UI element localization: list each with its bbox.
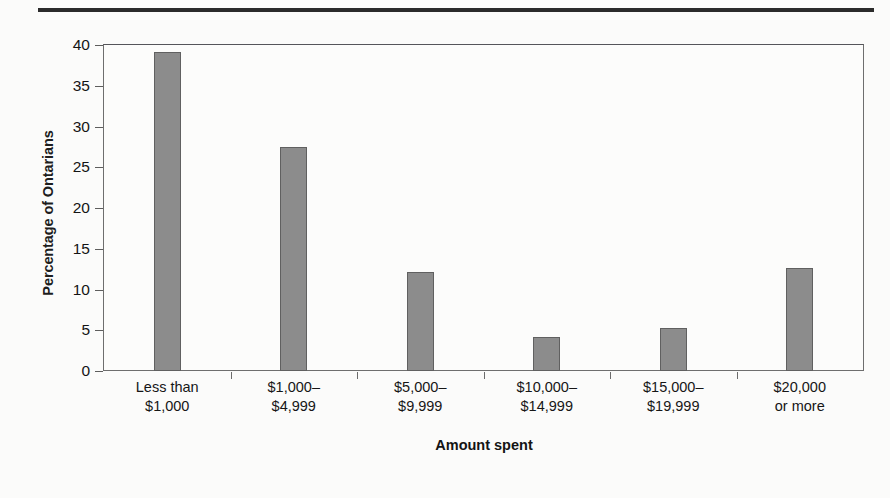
y-axis-tick-mark [95,371,103,372]
x-axis-category-label-line: $20,000 [737,378,864,397]
y-axis-tick-mark [95,86,103,87]
y-axis-tick-mark [95,127,103,128]
y-axis-tick-label: 0 [48,362,90,380]
y-axis-tick-mark [95,167,103,168]
x-axis-category-label-line: $9,999 [357,397,484,416]
bar [660,328,687,371]
y-axis-tick-mark [95,290,103,291]
x-axis-title: Amount spent [104,437,864,453]
y-axis-tick-mark [95,249,103,250]
bar [280,147,307,371]
x-axis-category-label-line: $5,000– [357,378,484,397]
x-axis-category-label-line: $19,999 [610,397,737,416]
x-axis-category-label: $15,000–$19,999 [610,378,737,416]
y-axis-tick-label: 5 [48,321,90,339]
bar [154,52,181,371]
x-axis-category-label-line: Less than [104,378,231,397]
bar-chart-figure: Percentage of Ontarians 0510152025303540… [0,0,890,498]
x-axis-category-label-line: or more [737,397,864,416]
y-axis-tick-label: 40 [48,36,90,54]
y-axis-tick-mark [95,45,103,46]
x-axis-category-label-line: $14,999 [484,397,611,416]
y-axis-tick-label: 30 [48,118,90,136]
x-axis-category-label: Less than$1,000 [104,378,231,416]
y-axis-tick-label: 25 [48,158,90,176]
y-axis-tick-mark [95,330,103,331]
x-axis-category-labels: Less than$1,000$1,000–$4,999$5,000–$9,99… [104,378,864,430]
x-axis-category-label: $10,000–$14,999 [484,378,611,416]
x-axis-category-label-line: $1,000 [104,397,231,416]
x-axis-category-label-line: $4,999 [231,397,358,416]
x-axis-category-label-line: $1,000– [231,378,358,397]
y-axis-tick-label: 10 [48,281,90,299]
x-axis-category-label: $1,000–$4,999 [231,378,358,416]
y-axis-tick-mark [95,208,103,209]
bar [786,268,813,372]
x-axis-category-label-line: $15,000– [610,378,737,397]
bar [533,337,560,371]
y-axis-tick-label: 20 [48,199,90,217]
x-axis-category-label-line: $10,000– [484,378,611,397]
y-axis-tick-label: 15 [48,240,90,258]
x-axis-category-label: $5,000–$9,999 [357,378,484,416]
x-axis-category-label: $20,000or more [737,378,864,416]
bars-layer [104,45,863,371]
bar [407,272,434,371]
top-rule-divider [38,8,874,12]
y-axis-tick-label: 35 [48,77,90,95]
